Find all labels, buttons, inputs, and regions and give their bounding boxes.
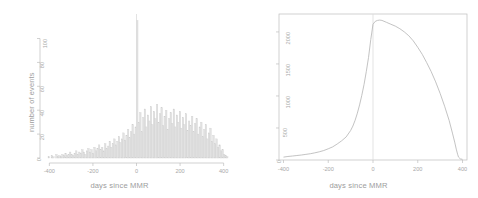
x-axis-title-left: days since MMR xyxy=(0,181,239,190)
x-tick-label-200: 200 xyxy=(175,168,184,174)
y-tick-label-500: 500 xyxy=(282,128,288,137)
x-tick-label--200: -200 xyxy=(323,166,334,172)
y-tick-label-40: 40 xyxy=(39,110,45,116)
panel-number-under-observation: number under observation days since MMR … xyxy=(239,0,478,198)
y-tick-label-100: 100 xyxy=(42,39,48,48)
x-tick-label-0: 0 xyxy=(135,168,138,174)
y-tick-label-0: 0 xyxy=(36,158,42,161)
x-tick-label-400: 400 xyxy=(219,168,228,174)
figure-two-panel: number of events days since MMR 02040608… xyxy=(0,0,478,198)
y-axis-title-left: number of events xyxy=(27,72,36,132)
x-tick-label-0: 0 xyxy=(371,166,374,172)
y-tick-label-1000: 1000 xyxy=(285,96,291,108)
y-tick-label-20: 20 xyxy=(39,134,45,140)
y-tick-label-0: 0 xyxy=(276,160,282,163)
line-plot-area xyxy=(239,0,478,198)
y-tick-label-60: 60 xyxy=(39,86,45,92)
x-tick-label-200: 200 xyxy=(413,166,422,172)
x-axis-title-right: days since MMR xyxy=(239,181,478,190)
x-tick-label-400: 400 xyxy=(458,166,467,172)
histogram-bars xyxy=(48,21,228,158)
y-tick-label-80: 80 xyxy=(39,62,45,68)
x-tick-label--400: -400 xyxy=(278,166,289,172)
y-tick-label-2000: 2000 xyxy=(285,32,291,44)
y-tick-label-1500: 1500 xyxy=(285,64,291,76)
panel-histogram-events: number of events days since MMR 02040608… xyxy=(0,0,239,198)
x-tick-label--400: -400 xyxy=(44,168,55,174)
x-tick-label--200: -200 xyxy=(87,168,98,174)
